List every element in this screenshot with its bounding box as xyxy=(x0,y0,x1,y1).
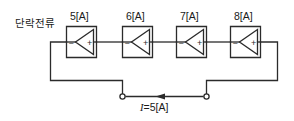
current-value: =5[A] xyxy=(144,101,169,113)
polarity-minus-3: − xyxy=(179,38,184,48)
polarity-plus-3: + xyxy=(197,38,202,48)
polarity-minus-4: − xyxy=(233,38,238,48)
current-direction-arrow xyxy=(156,94,166,100)
polarity-minus-1: − xyxy=(69,38,74,48)
polarity-minus-2: − xyxy=(125,38,130,48)
polarity-plus-1: + xyxy=(87,38,92,48)
source-label-4: 8[A] xyxy=(234,10,253,22)
circuit-diagram-figure: − + − + − + − + 단락전류 5[A] 6[A] 7[A] 8[A]… xyxy=(0,0,294,121)
source-label-3: 7[A] xyxy=(180,10,199,22)
source-label-1: 5[A] xyxy=(70,10,89,22)
left-terminal-node xyxy=(120,94,125,99)
right-terminal-node xyxy=(204,94,209,99)
source-label-2: 6[A] xyxy=(126,10,145,22)
circuit-label: 단락전류 xyxy=(15,15,55,30)
polarity-plus-2: + xyxy=(143,38,148,48)
current-value-label: I=5[A] xyxy=(140,101,168,113)
polarity-plus-4: + xyxy=(251,38,256,48)
wire-right-return xyxy=(207,42,278,97)
